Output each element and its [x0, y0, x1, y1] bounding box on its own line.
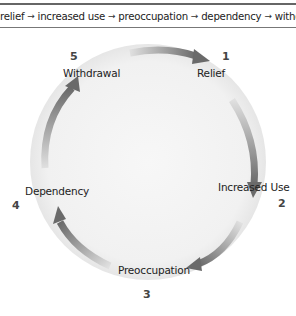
stage-label-preoccupation: Preoccupation [118, 264, 190, 276]
stage-label-increased-use: Increased Use [218, 181, 289, 193]
stage-number-2: 2 [278, 197, 286, 210]
stage-label-withdrawal: Withdrawal [63, 67, 120, 79]
stage-number-5: 5 [70, 50, 78, 63]
stage-label-relief: Relief [197, 67, 225, 79]
stage-number-4: 4 [12, 199, 20, 212]
stage-number-1: 1 [222, 50, 230, 63]
stage-number-3: 3 [143, 288, 151, 301]
cycle-background [30, 44, 266, 280]
stage-label-dependency: Dependency [25, 185, 89, 197]
